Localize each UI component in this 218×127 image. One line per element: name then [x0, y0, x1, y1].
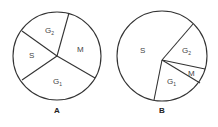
caption-b: B: [159, 106, 165, 115]
segment-label-b-g1: G1: [167, 77, 176, 87]
segment-label-a-s: S: [29, 51, 34, 60]
caption-a: A: [54, 106, 60, 115]
segment-label-b-g2: G2: [182, 46, 191, 56]
segment-label-b-s: S: [140, 46, 145, 55]
segment-label-a-g1: G1: [53, 77, 62, 87]
pie-outline-b: [117, 11, 207, 101]
segment-label-a-g2: G2: [45, 26, 54, 36]
divider-a-right: [57, 56, 95, 78]
divider-a-lower-left: [22, 56, 57, 80]
segment-label-a-m: M: [77, 45, 84, 54]
divider-a-top: [57, 13, 69, 56]
pie-diagram-b: S G2 M G1 B: [117, 11, 207, 115]
cell-cycle-pie-diagrams: G2 M G1 S A S G2 M G1 B: [0, 0, 218, 127]
pie-diagram-a: G2 M G1 S A: [13, 12, 101, 115]
segment-label-b-m: M: [188, 69, 195, 78]
divider-b-bottom: [154, 60, 162, 100]
